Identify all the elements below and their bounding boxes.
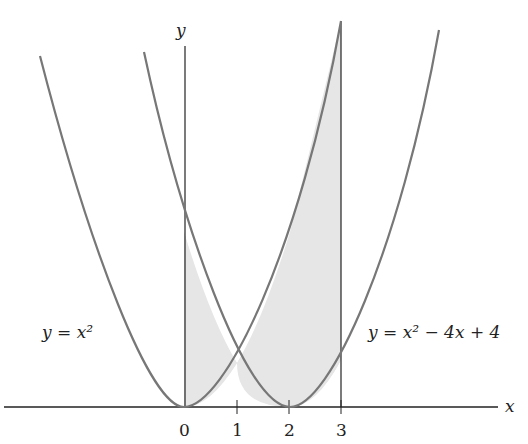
plot: [0, 0, 528, 444]
diagram: y x y = x² y = x² − 4x + 4 0 1 2 3: [0, 0, 528, 444]
curve1-label: y = x²: [42, 322, 93, 342]
shaded-right: [237, 21, 341, 407]
tick-label-3: 3: [336, 420, 347, 440]
x-axis-label: x: [505, 396, 515, 416]
tick-label-2: 2: [284, 420, 295, 440]
tick-label-0: 0: [179, 420, 190, 440]
tick-label-1: 1: [232, 420, 243, 440]
y-axis-label: y: [176, 20, 186, 40]
curve2-label: y = x² − 4x + 4: [368, 322, 500, 342]
